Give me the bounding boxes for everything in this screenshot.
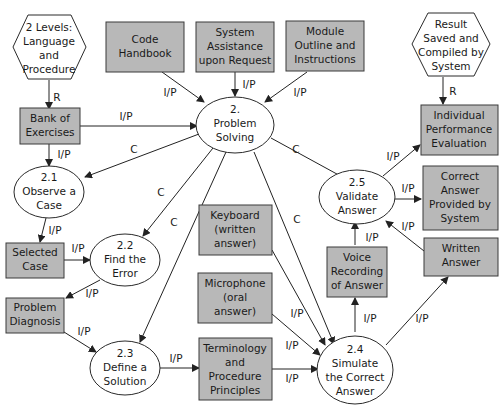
node-terminology: Terminology and Procedure Principles: [199, 338, 272, 400]
svg-text:answer): answer): [214, 237, 256, 249]
svg-text:Assistance: Assistance: [207, 40, 263, 52]
svg-text:Simulate: Simulate: [332, 357, 378, 369]
edge-label: I/P: [291, 307, 304, 319]
edge-label: I/P: [120, 110, 133, 122]
node-problem-diagnosis: Problem Diagnosis: [6, 298, 64, 333]
edge-label: I/P: [86, 287, 99, 299]
svg-text:Define a: Define a: [103, 361, 147, 373]
svg-text:Procedure: Procedure: [23, 63, 76, 75]
edge-label: I/P: [387, 150, 400, 162]
svg-text:Recording: Recording: [331, 265, 384, 277]
node-microphone: Microphone (oral answer): [198, 273, 272, 323]
edge-label: I/P: [243, 78, 256, 90]
svg-text:2 Levels:: 2 Levels:: [26, 21, 73, 33]
svg-text:and: and: [39, 49, 59, 61]
node-system-assistance: System Assistance upon Request: [196, 22, 274, 72]
svg-text:of Answer: of Answer: [331, 279, 384, 291]
node-validate-answer: 2.5 Validate Answer: [319, 170, 395, 224]
svg-text:Individual: Individual: [433, 109, 484, 121]
edge-label: R: [53, 91, 60, 103]
edge-label: I/P: [402, 220, 415, 232]
svg-text:Procedure: Procedure: [209, 370, 262, 382]
svg-text:Answer: Answer: [338, 204, 377, 216]
node-define-solution: 2.3 Define a Solution: [90, 341, 160, 395]
edge-label: I/P: [170, 352, 183, 364]
svg-text:Correct: Correct: [441, 170, 479, 182]
edge-label: I/P: [294, 86, 307, 98]
svg-text:Code: Code: [132, 33, 159, 45]
svg-text:(oral: (oral: [223, 291, 247, 303]
edge-label: I/P: [286, 372, 299, 384]
svg-text:Bank of: Bank of: [30, 112, 70, 124]
edge-label: C: [293, 213, 300, 225]
node-correct-answer: Correct Answer Provided by System: [423, 166, 498, 230]
edge-label: R: [449, 85, 456, 97]
node-written-answer: Written Answer: [424, 238, 498, 276]
edge-label: I/P: [364, 312, 377, 324]
svg-text:Problem: Problem: [214, 117, 257, 129]
svg-text:answer): answer): [214, 305, 256, 317]
svg-text:Evaluation: Evaluation: [431, 137, 486, 149]
edge-p2-p21: [85, 134, 199, 177]
node-module-outline: Module Outline and Instructions: [286, 21, 364, 71]
edge-label: I/P: [72, 242, 85, 254]
svg-text:Performance: Performance: [426, 123, 493, 135]
edge-p2-p25: [271, 138, 346, 179]
svg-text:2.: 2.: [230, 103, 240, 115]
edge-p21-p22-selected: [40, 218, 46, 242]
edge-label: I/P: [49, 224, 62, 236]
svg-text:Principles: Principles: [210, 384, 260, 396]
node-observe-case: 2.1 Observe a Case: [14, 166, 84, 218]
edge-label: C: [170, 216, 177, 228]
svg-text:Selected: Selected: [12, 246, 58, 258]
svg-text:Microphone: Microphone: [204, 277, 265, 289]
node-result: Result Saved and Compiled by System: [412, 13, 490, 76]
svg-text:Solution: Solution: [104, 375, 147, 387]
svg-text:Terminology: Terminology: [202, 342, 267, 354]
svg-text:2.4: 2.4: [347, 343, 364, 355]
process-flow-diagram: R R I/P I/P I/P I/P I/P C C C C C I/P I/…: [0, 0, 502, 408]
svg-text:Handbook: Handbook: [118, 47, 172, 59]
svg-text:Voice: Voice: [343, 251, 371, 263]
edge-label: I/P: [416, 312, 429, 324]
svg-text:Answer: Answer: [336, 385, 375, 397]
svg-text:Provided by: Provided by: [429, 198, 491, 210]
svg-text:2.1: 2.1: [41, 171, 58, 183]
edge-keyboard-p24: [272, 250, 325, 345]
svg-text:upon Request: upon Request: [199, 54, 271, 66]
edge-label: I/P: [78, 325, 91, 337]
svg-text:2.3: 2.3: [117, 347, 134, 359]
edge-label: C: [130, 143, 137, 155]
node-levels: 2 Levels: Language and Procedure: [13, 15, 86, 79]
svg-text:Compiled by: Compiled by: [418, 46, 484, 58]
node-code-handbook: Code Handbook: [106, 22, 184, 72]
edge-label: I/P: [164, 86, 177, 98]
svg-text:Solving: Solving: [216, 131, 254, 143]
svg-text:Language: Language: [23, 35, 75, 47]
node-keyboard: Keyboard (written answer): [199, 205, 272, 255]
svg-text:Answer: Answer: [441, 184, 480, 196]
svg-text:Outline and: Outline and: [294, 39, 355, 51]
edge-label: I/P: [286, 339, 299, 351]
node-simulate-answer: 2.4 Simulate the Correct Answer: [317, 336, 393, 404]
node-voice-recording: Voice Recording of Answer: [327, 247, 387, 297]
svg-text:Written: Written: [442, 242, 481, 254]
svg-text:(written: (written: [214, 223, 255, 235]
svg-text:Exercises: Exercises: [25, 126, 74, 138]
edge-p24-written: [386, 277, 448, 345]
svg-text:2.2: 2.2: [117, 239, 134, 251]
edge-label: I/P: [58, 148, 71, 160]
svg-text:Validate: Validate: [336, 190, 378, 202]
svg-text:Result: Result: [435, 18, 467, 30]
svg-text:Error: Error: [112, 267, 138, 279]
svg-text:Case: Case: [36, 199, 62, 211]
svg-text:2.5: 2.5: [349, 176, 366, 188]
svg-text:Answer: Answer: [442, 256, 481, 268]
svg-text:Module: Module: [306, 25, 344, 37]
edge-label: I/P: [366, 231, 379, 243]
edge-label: C: [292, 143, 299, 155]
node-individual-performance: Individual Performance Evaluation: [421, 105, 498, 155]
svg-text:Instructions: Instructions: [294, 53, 356, 65]
svg-text:System: System: [440, 212, 479, 224]
node-problem-solving: 2. Problem Solving: [196, 97, 274, 153]
